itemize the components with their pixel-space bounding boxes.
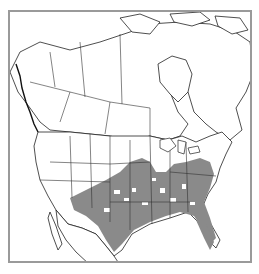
canada-landmass [10, 22, 252, 140]
north-america-map [10, 12, 252, 263]
map-frame: Distribution range map of southern/easte… [8, 10, 252, 263]
